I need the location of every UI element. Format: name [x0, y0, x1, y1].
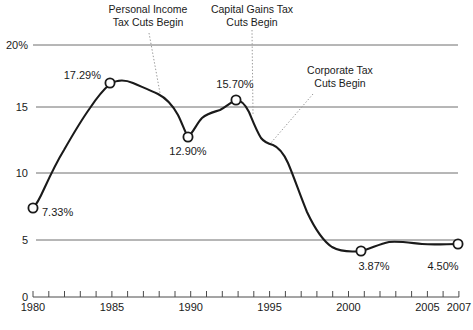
annotation-corporate-line2: Cuts Begin	[314, 77, 366, 89]
annotation-capital-gains-line1: Capital Gains Tax	[211, 3, 294, 15]
annotation-capital-gains: Capital Gains Tax Cuts Begin	[211, 3, 294, 28]
y-tick-label-15: 15	[16, 101, 28, 113]
x-tick-label-1980: 1980	[21, 301, 45, 313]
x-tick-label-2007: 2007	[447, 301, 471, 313]
data-point-marker-1980[interactable]	[28, 203, 37, 212]
annotation-corporate-line1: Corporate Tax	[307, 64, 374, 76]
annotation-personal-income-line2: Tax Cuts Begin	[113, 16, 184, 28]
y-tick-label-10: 10	[16, 167, 28, 179]
leader-line-personal-income	[149, 33, 160, 93]
y-axis: 20% 15 10 5 0	[6, 39, 28, 303]
chart-canvas: 20% 15 10 5 0	[0, 0, 473, 330]
x-axis: 1980 1985 1990 1995 2000 2005 2007	[21, 291, 471, 313]
y-tick-label-20: 20%	[6, 39, 28, 51]
data-point-marker-1990[interactable]	[183, 132, 192, 141]
annotation-corporate: Corporate Tax Cuts Begin	[307, 64, 374, 89]
x-tick-label-2000: 2000	[336, 301, 360, 313]
data-point-marker-2001[interactable]	[356, 246, 365, 255]
leader-line-corporate	[270, 94, 313, 144]
line-chart: 20% 15 10 5 0	[0, 0, 473, 330]
annotation-personal-income: Personal Income Tax Cuts Begin	[109, 3, 188, 28]
data-point-label-1993: 15.70%	[216, 78, 254, 90]
data-point-marker-1985[interactable]	[105, 78, 114, 87]
annotation-capital-gains-line2: Cuts Begin	[226, 16, 278, 28]
data-point-label-1980: 7.33%	[42, 206, 73, 218]
data-point-marker-1993[interactable]	[231, 95, 240, 104]
x-tick-label-1990: 1990	[178, 301, 202, 313]
x-tick-label-1985: 1985	[100, 301, 124, 313]
data-point-marker-2007[interactable]	[453, 239, 462, 248]
data-series	[33, 81, 458, 252]
data-point-label-2001: 3.87%	[358, 260, 389, 272]
annotation-personal-income-line1: Personal Income	[109, 3, 188, 15]
data-point-label-1990: 12.90%	[169, 145, 207, 157]
series-line-rate	[33, 81, 458, 252]
data-point-label-1985: 17.29%	[64, 69, 102, 81]
leader-line-capital-gains	[252, 30, 253, 114]
x-tick-label-1995: 1995	[257, 301, 281, 313]
y-tick-label-5: 5	[22, 234, 28, 246]
data-point-label-2007: 4.50%	[427, 260, 458, 272]
x-tick-label-2005: 2005	[415, 301, 439, 313]
x-axis-ticks	[33, 291, 459, 297]
